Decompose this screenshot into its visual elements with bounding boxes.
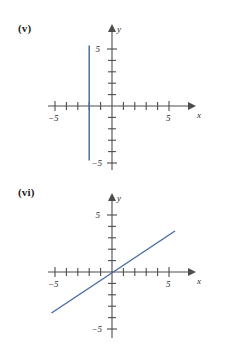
x-axis-label-v: x — [196, 110, 201, 120]
coordinate-plane-vi: −5 5 5 −5 x y — [0, 175, 241, 349]
x-axis-arrow-vi — [188, 268, 196, 276]
y-tick-label-neg5-vi: −5 — [91, 324, 102, 334]
y-tick-label-pos5-vi: 5 — [96, 210, 101, 220]
x-tick-label-neg5-vi: −5 — [48, 279, 59, 289]
y-axis-label-vi: y — [116, 193, 121, 203]
coordinate-plane-v: −5 5 5 −5 x y — [0, 0, 241, 175]
x-tick-label-pos5-v: 5 — [166, 113, 171, 123]
chart-panel-vi: (vi) — [0, 175, 241, 349]
y-tick-label-pos5-v: 5 — [96, 44, 101, 54]
x-axis-label-vi: x — [196, 276, 201, 286]
x-tick-label-pos5-vi: 5 — [166, 279, 171, 289]
x-tick-label-neg5-v: −5 — [48, 113, 59, 123]
chart-panel-v: (v) — [0, 0, 241, 175]
y-axis-label-v: y — [116, 24, 121, 34]
y-axis-arrow-v — [108, 24, 116, 32]
y-tick-label-neg5-v: −5 — [91, 158, 102, 168]
x-axis-arrow-v — [188, 102, 196, 110]
y-axis-arrow-vi — [108, 193, 116, 201]
